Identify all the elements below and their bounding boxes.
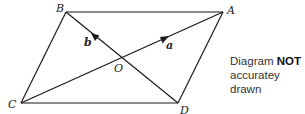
edge-cb: [21, 12, 66, 103]
vertex-label-d: D: [179, 104, 189, 114]
vector-label-b: b: [84, 36, 92, 49]
vector-b-arrow-icon: [91, 33, 100, 41]
vector-label-a: a: [166, 39, 173, 52]
vertex-label-o: O: [114, 62, 123, 75]
diagonal-bd: [66, 12, 178, 103]
vertex-label-b: B: [55, 2, 64, 15]
note-line-2: accuratey drawn: [230, 68, 305, 96]
edge-ad: [178, 12, 223, 103]
not-to-scale-note: Diagram NOT accuratey drawn: [230, 54, 305, 96]
vertex-label-a: A: [226, 4, 235, 17]
note-line-1: Diagram NOT: [230, 54, 305, 68]
note-emphasis: NOT: [277, 55, 301, 67]
vertex-label-c: C: [8, 98, 17, 111]
